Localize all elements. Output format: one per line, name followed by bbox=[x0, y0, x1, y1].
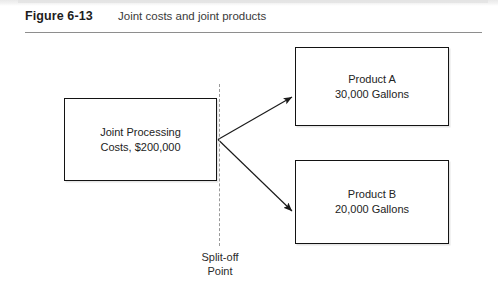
product-b-quantity: 20,000 Gallons bbox=[335, 202, 409, 217]
arrow-to-product-a bbox=[218, 97, 292, 140]
split-off-label-line-2: Point bbox=[170, 264, 270, 278]
product-a-name: Product A bbox=[348, 72, 396, 87]
figure-caption: Joint costs and joint products bbox=[118, 10, 266, 22]
split-off-point-label: Split-off Point bbox=[170, 250, 270, 278]
arrow-to-product-b bbox=[218, 140, 292, 212]
split-off-label-line-1: Split-off bbox=[170, 250, 270, 264]
figure-panel: Figure 6-13 Joint costs and joint produc… bbox=[0, 0, 498, 283]
figure-number-label: Figure 6-13 bbox=[25, 9, 93, 23]
page-top-shading-edge bbox=[18, 0, 488, 3]
joint-processing-costs-box: Joint Processing Costs, $200,000 bbox=[64, 98, 217, 181]
header-divider-rule bbox=[25, 32, 482, 33]
product-b-box: Product B 20,000 Gallons bbox=[295, 160, 449, 244]
product-b-name: Product B bbox=[348, 187, 396, 202]
joint-processing-line-1: Joint Processing bbox=[100, 125, 181, 140]
joint-processing-line-2: Costs, $200,000 bbox=[100, 140, 180, 155]
split-off-dashed-line bbox=[219, 84, 220, 246]
product-a-box: Product A 30,000 Gallons bbox=[295, 47, 449, 126]
product-a-quantity: 30,000 Gallons bbox=[335, 87, 409, 102]
